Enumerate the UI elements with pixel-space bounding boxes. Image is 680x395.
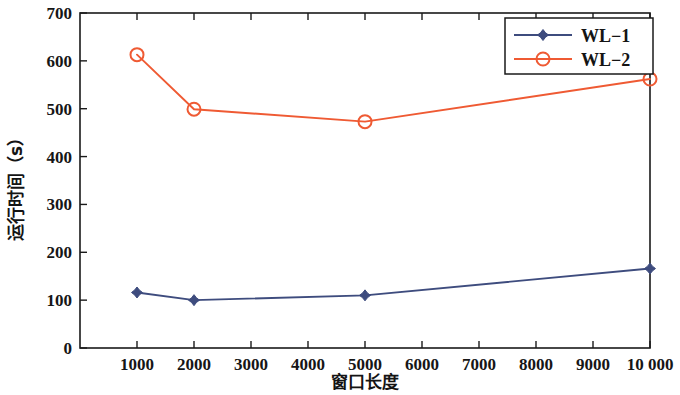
- x-tick-label: 9000: [576, 355, 610, 374]
- y-tick-label: 200: [47, 243, 73, 262]
- x-tick-label: 6000: [405, 355, 439, 374]
- x-tick-label: 8000: [519, 355, 553, 374]
- y-axis-ticks: 0100200300400500600700: [47, 4, 88, 358]
- chart-legend: WL−1WL−2: [505, 18, 653, 74]
- x-tick-label: 7000: [462, 355, 496, 374]
- data-point-marker: [360, 290, 371, 301]
- data-point-marker: [189, 295, 200, 306]
- series-line: [137, 269, 650, 301]
- legend-label: WL−1: [581, 26, 630, 46]
- x-tick-label: 2000: [177, 355, 211, 374]
- x-tick-label: 4000: [291, 355, 325, 374]
- y-tick-label: 500: [47, 100, 73, 119]
- x-tick-label: 1000: [120, 355, 154, 374]
- y-tick-label: 400: [47, 148, 73, 167]
- y-tick-label: 300: [47, 195, 73, 214]
- x-tick-label: 10 000: [627, 355, 674, 374]
- y-axis-title: 运行时间（s）: [6, 129, 26, 241]
- legend-label: WL−2: [581, 50, 630, 70]
- x-tick-label: 3000: [234, 355, 268, 374]
- chart-figure: 0100200300400500600700 10002000300040005…: [0, 0, 680, 395]
- data-point-marker: [645, 263, 656, 274]
- legend-box: [505, 18, 653, 74]
- y-tick-label: 0: [64, 339, 73, 358]
- y-tick-label: 100: [47, 291, 73, 310]
- line-chart-canvas: 0100200300400500600700 10002000300040005…: [0, 0, 680, 395]
- data-point-marker: [132, 287, 143, 298]
- series-wl-1: [132, 263, 656, 306]
- series-layer: [131, 48, 657, 306]
- x-axis-title: 窗口长度: [331, 372, 400, 392]
- y-tick-label: 600: [47, 52, 73, 71]
- y-tick-label: 700: [47, 4, 73, 23]
